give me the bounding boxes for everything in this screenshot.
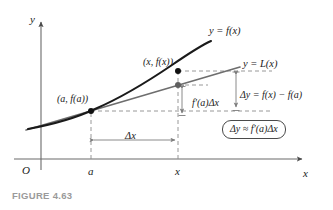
x-axis-label: x	[303, 168, 308, 179]
x-tick-label-a: a	[88, 166, 94, 177]
x-tick-label-x: x	[175, 166, 180, 177]
origin-label: O	[22, 165, 30, 176]
delta-y-label: Δy = f(x) − f(a)	[240, 90, 302, 100]
function-curve-label: y = f(x)	[209, 26, 241, 37]
figure-caption: FIGURE 4.63	[12, 190, 72, 201]
boxed-approximation-formula: Δy ≈ f′(a)Δx	[222, 120, 286, 139]
figure-graphic	[0, 0, 333, 210]
point-x-fx	[175, 68, 181, 74]
delta-x-label: Δx	[125, 131, 136, 142]
point-a-label: (a, f(a))	[57, 94, 88, 104]
figure-container: y x O a x y = f(x) y = L(x) (a, f(a)) (x…	[0, 0, 333, 210]
y-axis-label: y	[30, 14, 35, 25]
differential-label: f′(a)Δx	[192, 98, 219, 108]
point-x-lx	[175, 82, 181, 88]
tangent-line-label: y = L(x)	[243, 59, 278, 70]
point-x-label: (x, f(x))	[143, 57, 173, 67]
point-a-fa	[88, 108, 94, 114]
